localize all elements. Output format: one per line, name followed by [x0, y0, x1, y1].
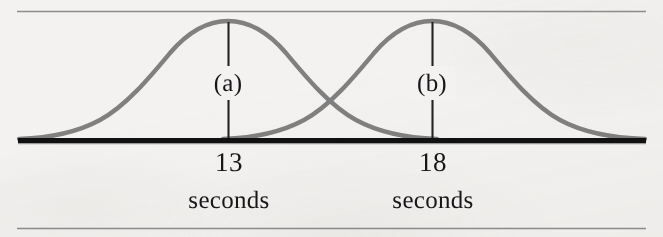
x-axis-units-label-a: seconds — [188, 188, 269, 213]
distribution-figure: (a) (b) 13 18 seconds seconds — [0, 0, 663, 237]
normal-curves-plot — [0, 0, 663, 237]
x-tick-label-13: 13 — [215, 149, 243, 176]
curve-b-tag: (b) — [417, 71, 447, 96]
x-tick-label-18: 18 — [419, 149, 447, 176]
curve-a-tag: (a) — [214, 71, 242, 96]
x-axis-units-label-b: seconds — [392, 188, 473, 213]
